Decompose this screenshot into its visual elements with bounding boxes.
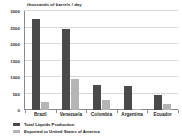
bar[interactable]	[154, 95, 162, 110]
x-tick-label: Colombia	[86, 112, 117, 117]
x-tick	[178, 110, 179, 113]
legend-label: Exported to United States of America	[24, 129, 100, 134]
bar-groups	[25, 11, 178, 110]
y-tick-label: 500	[13, 91, 20, 96]
legend-item[interactable]: Exported to United States of America	[13, 128, 100, 135]
bar[interactable]	[32, 19, 40, 110]
y-tick-label: 0	[18, 108, 20, 113]
bar-group	[25, 11, 56, 110]
legend-label: Total Liquids Production	[24, 122, 74, 127]
plot-area	[24, 11, 178, 110]
x-tick-label: Argentina	[117, 112, 148, 117]
bar-chart: thousands of barrels / day 0500100015002…	[0, 0, 182, 138]
y-tick-label: 2500	[10, 25, 20, 30]
legend-item[interactable]: Total Liquids Production	[13, 121, 100, 128]
bar-group	[117, 11, 148, 110]
legend: Total Liquids ProductionExported to Unit…	[13, 121, 100, 135]
y-tick-label: 2000	[10, 42, 20, 47]
y-axis-tick-labels: 050010001500200025003000	[0, 11, 22, 110]
bar-group	[56, 11, 87, 110]
y-tick-label: 1000	[10, 75, 20, 80]
y-tick-label: 1500	[10, 58, 20, 63]
bar-group	[86, 11, 117, 110]
bar[interactable]	[102, 100, 110, 110]
legend-swatch-icon	[13, 130, 20, 133]
x-tick-label: Brazil	[25, 112, 56, 117]
bar-group	[147, 11, 178, 110]
x-tick-label: Ecuador	[147, 112, 178, 117]
legend-swatch-icon	[13, 123, 20, 126]
x-tick-label: Venezuela	[56, 112, 87, 117]
bar[interactable]	[62, 29, 70, 110]
y-tick-label: 3000	[10, 9, 20, 14]
bar[interactable]	[71, 79, 79, 110]
y-axis-title: thousands of barrels / day	[27, 2, 82, 7]
bar[interactable]	[41, 102, 49, 110]
bar[interactable]	[124, 86, 132, 110]
bar[interactable]	[93, 85, 101, 110]
x-axis-tick-labels: BrazilVenezuelaColombiaArgentinaEcuador	[25, 112, 178, 117]
